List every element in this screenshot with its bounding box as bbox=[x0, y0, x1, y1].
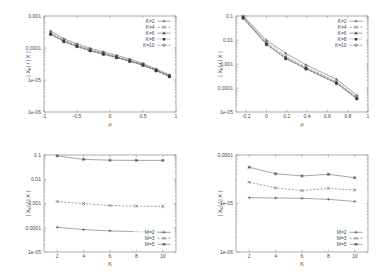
svg-text:ρ: ρ bbox=[108, 121, 111, 127]
panel-bottom-left: 0.10.010.0010.00011e-05246810K| XK| / | … bbox=[0, 139, 191, 279]
svg-text:0: 0 bbox=[109, 113, 112, 119]
svg-text:0.0001: 0.0001 bbox=[25, 225, 41, 231]
svg-text:ρ: ρ bbox=[300, 121, 303, 127]
svg-text:0.4: 0.4 bbox=[304, 113, 311, 119]
svg-text:1e-05: 1e-05 bbox=[28, 249, 41, 255]
svg-text:0.1: 0.1 bbox=[226, 13, 233, 19]
svg-text:K=4: K=4 bbox=[338, 25, 347, 30]
svg-text:1e-06: 1e-06 bbox=[28, 109, 41, 115]
panel-top-left: 0.0010.00011e-051e-06-1-0.500.51ρ| XK| /… bbox=[0, 0, 191, 140]
svg-text:6: 6 bbox=[301, 253, 304, 259]
figure-four-panel-log-plots: 0.0010.00011e-051e-06-1-0.500.51ρ| XK| /… bbox=[0, 0, 383, 280]
svg-text:M=5: M=5 bbox=[145, 242, 155, 247]
svg-text:2: 2 bbox=[248, 253, 251, 259]
svg-text:8: 8 bbox=[135, 253, 138, 259]
svg-text:0.5: 0.5 bbox=[139, 113, 146, 119]
svg-text:8: 8 bbox=[327, 253, 330, 259]
svg-text:0.2: 0.2 bbox=[283, 113, 290, 119]
svg-text:1: 1 bbox=[175, 113, 178, 119]
svg-text:K=8: K=8 bbox=[146, 37, 155, 42]
svg-text:0.0001: 0.0001 bbox=[217, 85, 233, 91]
svg-text:K=8: K=8 bbox=[338, 37, 347, 42]
svg-text:K=4: K=4 bbox=[146, 25, 155, 30]
svg-text:0: 0 bbox=[265, 113, 268, 119]
svg-text:4: 4 bbox=[274, 253, 277, 259]
svg-text:2: 2 bbox=[56, 253, 59, 259]
plot-bottom-left: 0.10.010.0010.00011e-05246810K| XK| / | … bbox=[0, 139, 191, 280]
svg-text:K: K bbox=[108, 261, 112, 267]
panel-top-right: 0.10.010.0010.00011e-05-0.200.20.40.60.8… bbox=[192, 0, 383, 140]
svg-text:0.0001: 0.0001 bbox=[25, 45, 41, 51]
svg-text:1: 1 bbox=[367, 113, 370, 119]
svg-text:0.01: 0.01 bbox=[31, 176, 41, 182]
svg-text:10: 10 bbox=[352, 253, 358, 259]
svg-text:0.6: 0.6 bbox=[324, 113, 331, 119]
svg-text:K=6: K=6 bbox=[338, 31, 347, 36]
svg-text:6: 6 bbox=[109, 253, 112, 259]
plot-bottom-right: 0.00011e-051e-06246810K| XK| / | X |M=2M… bbox=[192, 139, 383, 280]
svg-text:0.01: 0.01 bbox=[223, 37, 233, 43]
svg-text:K=10: K=10 bbox=[143, 43, 155, 48]
svg-text:4: 4 bbox=[82, 253, 85, 259]
svg-text:M=5: M=5 bbox=[337, 242, 347, 247]
svg-text:M=2: M=2 bbox=[145, 230, 155, 235]
svg-text:1e-06: 1e-06 bbox=[220, 249, 233, 255]
svg-text:1e-05: 1e-05 bbox=[220, 109, 233, 115]
svg-text:0.8: 0.8 bbox=[344, 113, 351, 119]
plot-top-right: 0.10.010.0010.00011e-05-0.200.20.40.60.8… bbox=[192, 0, 383, 140]
svg-text:0.1: 0.1 bbox=[34, 152, 41, 158]
svg-text:K=10: K=10 bbox=[335, 43, 347, 48]
svg-text:M=3: M=3 bbox=[145, 236, 155, 241]
svg-text:K=6: K=6 bbox=[146, 31, 155, 36]
svg-text:| XK| / | X |: | XK| / | X | bbox=[25, 51, 32, 76]
svg-text:K: K bbox=[300, 261, 304, 267]
svg-text:0.001: 0.001 bbox=[28, 13, 41, 19]
svg-text:M=3: M=3 bbox=[337, 236, 347, 241]
svg-text:K=2: K=2 bbox=[146, 19, 155, 24]
svg-text:-1: -1 bbox=[42, 113, 47, 119]
panel-bottom-right: 0.00011e-051e-06246810K| XK| / | X |M=2M… bbox=[192, 139, 383, 279]
plot-top-left: 0.0010.00011e-051e-06-1-0.500.51ρ| XK| /… bbox=[0, 0, 191, 140]
svg-text:0.0001: 0.0001 bbox=[217, 152, 233, 158]
svg-text:K=2: K=2 bbox=[338, 19, 347, 24]
svg-text:M=2: M=2 bbox=[337, 230, 347, 235]
svg-text:-0.2: -0.2 bbox=[242, 113, 251, 119]
svg-text:-0.5: -0.5 bbox=[73, 113, 82, 119]
svg-text:10: 10 bbox=[160, 253, 166, 259]
svg-text:1e-05: 1e-05 bbox=[28, 77, 41, 83]
